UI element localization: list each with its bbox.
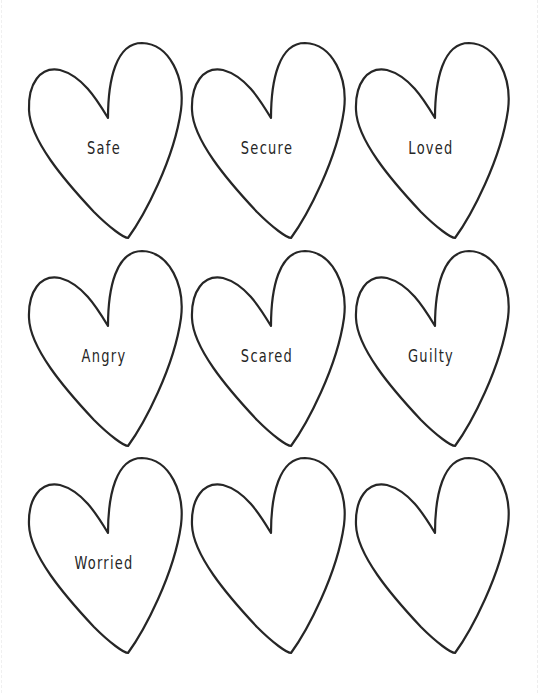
heart-scared: Scared <box>187 248 347 448</box>
heart-angry: Angry <box>24 248 184 448</box>
heart-label: Angry <box>36 346 172 366</box>
heart-label: Worried <box>36 553 172 573</box>
heart-safe: Safe <box>24 40 184 240</box>
heart-label: Secure <box>199 138 335 158</box>
heart-outline-icon <box>187 455 347 655</box>
heart-blank-2 <box>351 455 511 655</box>
heart-blank-1 <box>187 455 347 655</box>
heart-label: Scared <box>199 346 335 366</box>
heart-secure: Secure <box>187 40 347 240</box>
heart-grid: Safe Secure Loved Angry Scared Guilty <box>0 0 539 693</box>
heart-guilty: Guilty <box>351 248 511 448</box>
heart-worried: Worried <box>24 455 184 655</box>
heart-loved: Loved <box>351 40 511 240</box>
heart-outline-icon <box>351 455 511 655</box>
heart-label: Loved <box>363 138 499 158</box>
heart-label: Guilty <box>363 346 499 366</box>
heart-label: Safe <box>36 138 172 158</box>
